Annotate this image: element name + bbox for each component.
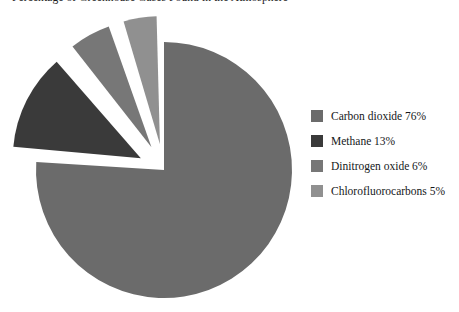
pie-slices (13, 16, 292, 298)
legend-item: Carbon dioxide 76% (311, 103, 459, 128)
legend-item: Chlorofluorocarbons 5% (311, 178, 459, 203)
legend-item-label: Dinitrogen oxide 6% (331, 160, 427, 172)
chart-legend: Carbon dioxide 76% Methane 13% Dinitroge… (311, 103, 459, 203)
legend-item-label: Chlorofluorocarbons 5% (331, 185, 445, 197)
legend-item: Methane 13% (311, 128, 459, 153)
legend-swatch-icon (311, 160, 323, 172)
legend-swatch-icon (311, 135, 323, 147)
legend-swatch-icon (311, 110, 323, 122)
pie-chart-figure: Percentage of Greenhouse Gases Found in … (0, 0, 459, 312)
pie-plot-area (0, 0, 300, 312)
legend-item-label: Carbon dioxide 76% (331, 110, 426, 122)
legend-item-label: Methane 13% (331, 135, 395, 147)
legend-swatch-icon (311, 185, 323, 197)
pie-slice-carbon-dioxide (36, 42, 292, 298)
pie-svg (0, 0, 300, 312)
legend-item: Dinitrogen oxide 6% (311, 153, 459, 178)
